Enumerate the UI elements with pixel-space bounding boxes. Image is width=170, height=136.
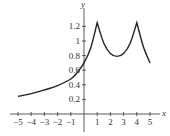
y-tick-label: 1.2 bbox=[69, 21, 80, 31]
x-tick-label: −4 bbox=[26, 117, 36, 127]
x-tick-label: −5 bbox=[13, 117, 23, 127]
x-tick-label: 4 bbox=[135, 117, 140, 127]
x-tick-label: −2 bbox=[53, 117, 63, 127]
y-axis-label: y bbox=[80, 0, 85, 9]
y-tick-label: 0.2 bbox=[69, 94, 80, 104]
x-tick-label: 2 bbox=[108, 117, 113, 127]
x-tick-label: −1 bbox=[66, 117, 76, 127]
y-tick-label: 1 bbox=[76, 36, 81, 46]
x-tick-label: −3 bbox=[40, 117, 50, 127]
function-plot: −5−4−3−2−112345 0.20.40.60.811.2 x y bbox=[0, 0, 170, 136]
x-tick-label: 5 bbox=[148, 117, 153, 127]
x-tick-label: 1 bbox=[95, 117, 100, 127]
y-tick-label: 0.4 bbox=[69, 80, 81, 90]
y-tick-label: 0.8 bbox=[69, 51, 81, 61]
x-tick-label: 3 bbox=[121, 117, 126, 127]
x-axis-label: x bbox=[161, 108, 166, 118]
